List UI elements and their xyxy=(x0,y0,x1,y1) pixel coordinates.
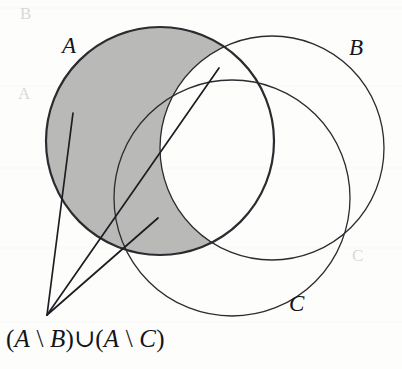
caption-setminus-2: \ xyxy=(119,325,139,352)
caption-set-c: C xyxy=(139,325,156,352)
caption-close-paren-1: ) xyxy=(66,325,75,352)
venn-diagram-canvas xyxy=(0,0,402,369)
set-label-b: B xyxy=(349,36,363,59)
caption-open-paren-2: ( xyxy=(95,325,104,352)
caption-union-symbol: ∪ xyxy=(74,325,95,352)
caption-close-paren-2: ) xyxy=(156,325,165,352)
set-label-c: C xyxy=(289,292,304,315)
caption-expression: (A \ B)∪(A \ C) xyxy=(6,326,165,352)
venn-diagram-figure: B A C A B C (A \ B)∪(A \ C) xyxy=(0,0,402,369)
caption-set-a-2: A xyxy=(104,325,119,352)
set-label-a: A xyxy=(62,34,76,57)
caption-open-paren-1: ( xyxy=(6,325,15,352)
shaded-region-a-minus-b-and-c xyxy=(0,0,402,369)
caption-setminus-1: \ xyxy=(30,325,50,352)
caption-set-a-1: A xyxy=(15,325,30,352)
caption-set-b: B xyxy=(50,325,65,352)
